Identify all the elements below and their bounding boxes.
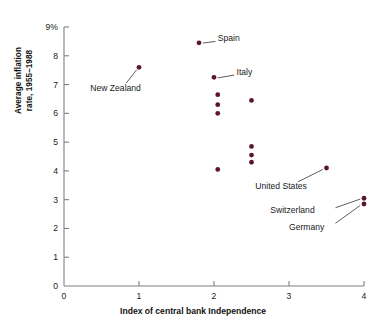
data-point[interactable] bbox=[215, 102, 220, 107]
leader-line bbox=[336, 199, 361, 208]
point-label-germany: Germany bbox=[289, 222, 324, 232]
y-tick-label: 2 bbox=[24, 223, 58, 233]
y-tick-label: 7 bbox=[24, 80, 58, 90]
y-tick-label: 3 bbox=[24, 195, 58, 205]
y-tick-label: 8 bbox=[24, 51, 58, 61]
leader-line bbox=[336, 205, 361, 223]
data-point[interactable] bbox=[324, 166, 329, 171]
data-point[interactable] bbox=[249, 153, 254, 158]
data-point[interactable] bbox=[249, 144, 254, 149]
leader-line bbox=[218, 75, 235, 78]
point-label-italy: Italy bbox=[237, 67, 253, 77]
leader-line bbox=[203, 41, 216, 43]
x-tick-label: 2 bbox=[212, 291, 217, 301]
data-point[interactable] bbox=[215, 167, 220, 172]
point-label-spain: Spain bbox=[218, 33, 240, 43]
data-point[interactable] bbox=[137, 65, 142, 70]
data-point[interactable] bbox=[249, 160, 254, 165]
x-tick-label: 3 bbox=[287, 291, 292, 301]
y-tick-label: 0 bbox=[24, 281, 58, 291]
x-tick-label: 0 bbox=[62, 291, 67, 301]
y-tick-label: 1 bbox=[24, 252, 58, 262]
data-point[interactable] bbox=[362, 202, 367, 207]
data-point[interactable] bbox=[215, 111, 220, 116]
y-tick-label: 4 bbox=[24, 166, 58, 176]
point-label-new-zealand: New Zealand bbox=[90, 83, 141, 93]
data-point[interactable] bbox=[215, 92, 220, 97]
data-point[interactable] bbox=[197, 40, 202, 45]
data-point[interactable] bbox=[362, 196, 367, 201]
point-label-switzerland: Switzerland bbox=[270, 205, 314, 215]
scatter-chart: Average inflation rate, 1955–1988 Index … bbox=[0, 0, 378, 330]
x-tick-label: 1 bbox=[137, 291, 142, 301]
y-tick-label: 5 bbox=[24, 137, 58, 147]
x-tick-label: 4 bbox=[362, 291, 367, 301]
data-point[interactable] bbox=[249, 98, 254, 103]
y-tick-label: 9% bbox=[24, 22, 58, 32]
point-label-united-states: United States bbox=[255, 181, 307, 191]
y-tick-label: 6 bbox=[24, 108, 58, 118]
data-point[interactable] bbox=[212, 75, 217, 80]
leader-line bbox=[126, 70, 137, 84]
